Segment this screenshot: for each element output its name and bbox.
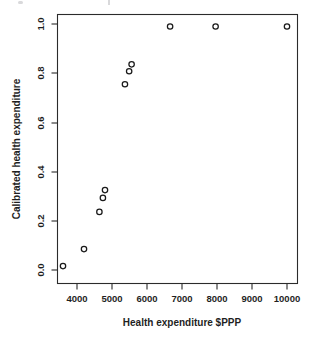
data-point [81, 246, 86, 251]
x-tick-label: 9000 [241, 293, 262, 304]
y-tick-label: 0.2 [35, 214, 46, 227]
x-tick-label: 8000 [206, 293, 227, 304]
x-tick-label: 5000 [101, 293, 122, 304]
data-point [167, 24, 172, 29]
y-axis-title: Calibrated health expenditure [11, 78, 22, 219]
x-tick-label: 10000 [274, 293, 300, 304]
data-point [284, 24, 289, 29]
data-points [60, 24, 289, 269]
scatter-chart: 4000 5000 6000 7000 8000 9000 10000 0.0 … [0, 0, 319, 339]
data-point [122, 82, 127, 87]
y-tick-label: 0.6 [35, 116, 46, 129]
data-point [129, 62, 134, 67]
plot-canvas: 4000 5000 6000 7000 8000 9000 10000 0.0 … [0, 0, 319, 339]
x-tick-label: 4000 [66, 293, 87, 304]
x-axis-ticks [77, 284, 287, 290]
y-axis-tick-labels: 0.0 0.2 0.4 0.6 0.8 1.0 [35, 17, 46, 276]
x-tick-label: 6000 [136, 293, 157, 304]
data-point [100, 195, 105, 200]
x-axis-tick-labels: 4000 5000 6000 7000 8000 9000 10000 [66, 293, 300, 304]
x-tick-label: 7000 [171, 293, 192, 304]
y-tick-label: 1.0 [35, 17, 46, 30]
y-tick-label: 0.8 [35, 66, 46, 79]
data-point [60, 263, 65, 268]
y-tick-label: 0.4 [35, 165, 46, 179]
data-point [126, 69, 131, 74]
plot-frame [58, 15, 298, 284]
y-axis-ticks [52, 24, 58, 270]
x-axis-title: Health expenditure $PPP [123, 317, 242, 328]
data-point [102, 187, 107, 192]
data-point [213, 24, 218, 29]
data-point [97, 209, 102, 214]
y-tick-label: 0.0 [35, 263, 46, 276]
